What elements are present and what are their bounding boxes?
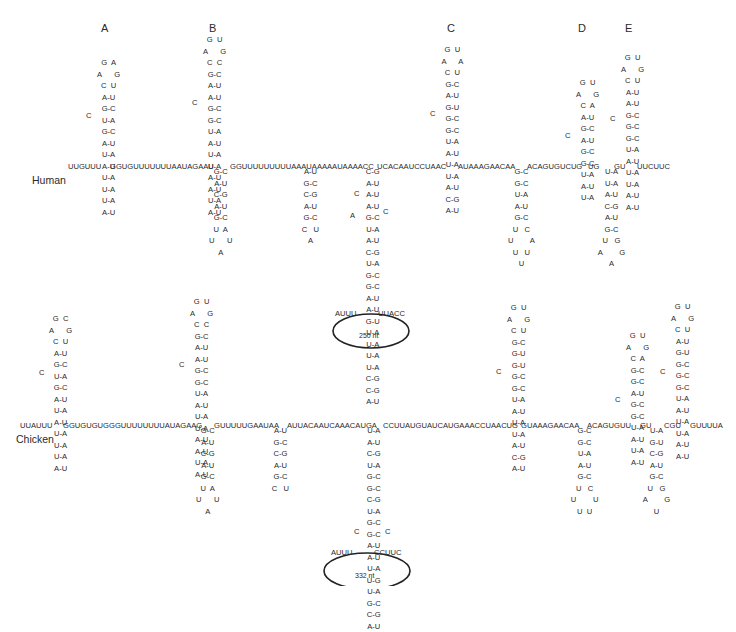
hairpin-loop-nt: C U [53,336,68,348]
base-pair: A-U [512,463,525,475]
stem-label-e: E [625,22,632,35]
base-pair: G-C [366,270,380,282]
base-pair: G-C [676,382,690,394]
hairpin-loop-nt: C C [194,319,209,331]
base-pair: A-U [304,201,317,213]
stem-long-down: U-AA-UC-GU-AG-CG-CC-GU-AG-CG-CA-UA-UU-AU… [367,425,381,632]
stem-ac-down: A-UG-CC-GA-UG-CC U [272,425,289,494]
base-pair: U-A [366,224,379,236]
base-pair: G-C [367,471,381,483]
base-pair: G-C [676,359,690,371]
base-pair: A-U [446,205,459,217]
base-pair: U-A [208,126,221,138]
base-pair: G-C [201,425,215,437]
base-pair: G-C [366,212,380,224]
base-pair: C-G [650,448,664,460]
base-pair: G-C [581,123,595,135]
base-pair: A-U [366,201,379,213]
base-pair: U-A [366,362,379,374]
base-pair: A-U [208,92,221,104]
base-pair: G-C [195,331,209,343]
loop-length-note: 250 nt [359,332,378,339]
base-pair: U-A [54,451,67,463]
hairpin-loop-nt: U U [577,506,592,518]
base-pair: U-A [512,417,525,429]
base-pair: A-U [195,342,208,354]
base-pair: C-G [273,448,287,460]
hairpin-loop-nt: A G [507,314,530,326]
stem-B-down: G-CA-UC-GA-UG-CU AU UA [196,425,220,517]
base-pair: C-G [367,609,381,621]
base-pair: U-A [54,428,67,440]
backbone-segment: UUAUUU [20,420,53,432]
base-pair: G-C [367,598,381,610]
base-pair: A-U [366,178,379,190]
stem-B-down: G-CA-UC-GA-UG-CU AU UA [209,166,233,258]
bulge-nt: A [350,210,355,222]
hairpin-loop-nt: U U [571,494,599,506]
base-pair: A-U [446,90,459,102]
base-pair: G-C [367,483,381,495]
stem-E: G UA GC UA-UA-UG-CG-CG-CU-AA-UU-AU-AA-UA… [621,52,644,213]
base-pair: U-A [54,405,67,417]
hairpin-loop-nt: A [308,235,313,247]
hairpin-loop-nt: C A [630,353,644,365]
base-pair: G-C [676,370,690,382]
base-pair: A-U [366,235,379,247]
hairpin-loop-nt: C U [675,324,690,336]
base-pair: A-U [676,405,689,417]
base-pair: U-A [581,169,594,181]
base-pair: A-U [208,80,221,92]
base-pair: A-U [102,161,115,173]
base-pair: A-U [446,148,459,160]
base-pair: C-G [445,194,459,206]
hairpin-loop-nt: A G [190,308,213,320]
hairpin-loop-nt: C U [101,80,116,92]
stem-label-d: D [578,22,586,35]
base-pair: C-G [366,385,380,397]
backbone-segment: AUAAAGAACAA [458,161,515,173]
base-pair: U-A [515,189,528,201]
bulge-nt: C [39,367,44,379]
base-pair: C-G [605,201,619,213]
base-pair: A-U [54,394,67,406]
hairpin-loop-nt: G U [511,302,527,314]
hairpin-loop-nt: C U [272,483,289,495]
loop-length-note: 332 nt [355,572,374,579]
base-pair: C-G [367,448,381,460]
loop-left-seq: AUUU [331,547,353,559]
base-pair: G-C [626,121,640,133]
hairpin-loop-nt: A G [598,247,625,259]
stem-C: G UA AC UG-CA-UG-UG-CG-CU-AA-UU-AU-AA-UC… [441,44,463,217]
base-pair: U-A [446,171,459,183]
stem-ac-down: A-UG-CC-GA-UG-CC UA [302,166,319,247]
base-pair: A-U [626,98,639,110]
base-pair: G-C [626,133,640,145]
hairpin-loop-nt: U A [508,235,535,247]
base-pair: A-U [214,178,227,190]
bulge-nt: C [610,113,615,125]
base-pair: G-C [445,113,459,125]
hairpin-loop-nt: G A [101,57,116,69]
base-pair: A-U [208,138,221,150]
base-pair: A-U [605,189,618,201]
hairpin-loop-nt: A G [576,89,599,101]
hairpin-loop-nt: U A [201,483,215,495]
base-pair: C-G [214,189,228,201]
base-pair: G-C [631,365,645,377]
hairpin-loop-nt: G C [53,313,69,325]
base-pair: G-C [366,281,380,293]
backbone-segment: CCUUAUGUAUCAUGAAACCUAACUG [383,420,518,432]
base-pair: U-A [605,178,618,190]
hairpin-loop-nt: G U [194,296,210,308]
hairpin-loop-nt: A G [97,69,120,81]
base-pair: A-U [578,460,591,472]
base-pair: U-A [367,506,380,518]
base-pair: G-C [445,79,459,91]
loop-right-seq: CCUUC [374,547,401,559]
base-pair: U-A [367,425,380,437]
base-pair: U-A [195,388,208,400]
base-pair: G-U [676,347,690,359]
base-pair: G-C [54,382,68,394]
